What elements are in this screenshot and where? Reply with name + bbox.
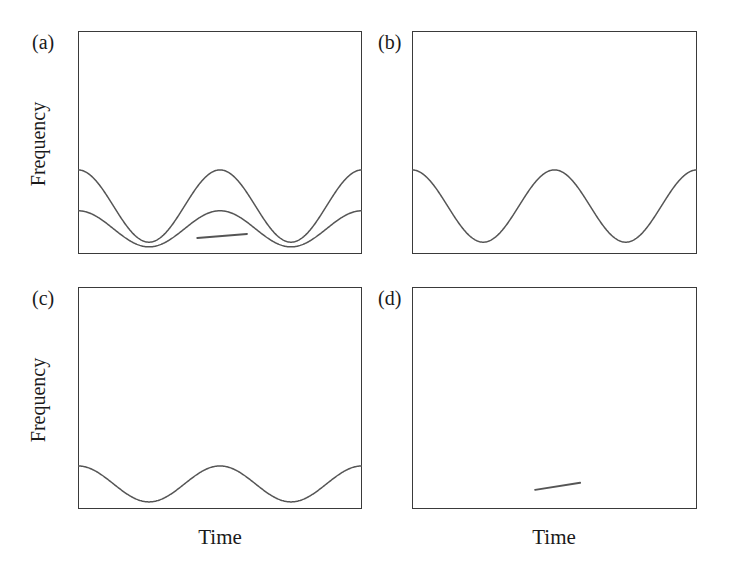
figure-root: (a) (b) (c) (d) Frequency Frequency Time… bbox=[0, 0, 732, 567]
panel-c bbox=[78, 287, 362, 509]
panel-a-plot bbox=[78, 31, 362, 254]
panel-b-label: (b) bbox=[378, 32, 401, 52]
panel-b-plot bbox=[412, 31, 697, 254]
panel-c-plot bbox=[78, 287, 362, 509]
curve-low-amplitude-oscillation bbox=[78, 466, 362, 502]
x-axis-label-right: Time bbox=[484, 527, 624, 548]
panel-d bbox=[412, 287, 697, 509]
panel-c-label: (c) bbox=[32, 288, 54, 308]
trend-segment bbox=[197, 234, 247, 238]
panel-a-label: (a) bbox=[32, 32, 54, 52]
panel-d-label: (d) bbox=[378, 288, 401, 308]
curve-high-amplitude-oscillation bbox=[78, 170, 362, 242]
panel-b bbox=[412, 31, 697, 254]
panel-a bbox=[78, 31, 362, 254]
curve-high-amplitude-oscillation bbox=[412, 170, 697, 242]
trend-segment bbox=[535, 483, 580, 490]
y-axis-label-top: Frequency bbox=[28, 84, 48, 204]
panel-d-plot bbox=[412, 287, 697, 509]
x-axis-label-left: Time bbox=[150, 527, 290, 548]
y-axis-label-bottom: Frequency bbox=[28, 340, 48, 460]
